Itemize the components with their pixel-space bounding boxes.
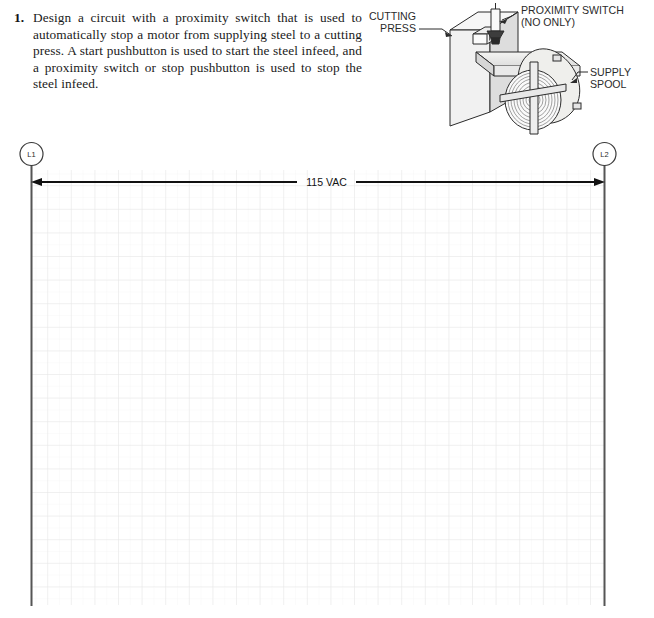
callout-proximity-switch-line1: PROXIMITY SWITCH <box>521 4 624 16</box>
l1-terminal-label: L1 <box>27 150 35 159</box>
callout-supply-spool-line1: SUPPLY <box>590 66 631 78</box>
worksheet-page: 1. Design a circuit with a proximity swi… <box>0 0 654 618</box>
proximity-switch-barrel <box>491 9 500 31</box>
callout-proximity-switch-line2: (NO ONLY) <box>521 16 575 28</box>
problem-text: Design a circuit with a proximity switch… <box>33 10 362 93</box>
cutting-press-illustration: CUTTING PRESS PROXIMITY SWITCH (NO ONLY)… <box>366 0 654 136</box>
ladder-diagram-worksheet[interactable]: L1 L2 115 VAC <box>0 138 654 618</box>
supply-voltage-label: 115 VAC <box>306 176 347 188</box>
problem-statement: 1. Design a circuit with a proximity swi… <box>14 10 362 93</box>
l2-terminal-label: L2 <box>600 150 608 159</box>
l2-terminal: L2 <box>593 143 616 166</box>
callout-supply-spool-line2: SPOOL <box>590 78 627 90</box>
problem-number: 1. <box>14 10 33 27</box>
proximity-switch-nut-lower <box>491 38 500 44</box>
spool-tab-right <box>573 103 581 109</box>
spool-spindle-arm-vertical <box>530 62 538 134</box>
l1-terminal: L1 <box>20 143 43 166</box>
spool-tab-top <box>553 55 561 61</box>
callout-cutting-press-line1: CUTTING <box>369 10 416 22</box>
press-die-shoe-front <box>473 34 487 44</box>
grid-major-lines <box>31 170 605 605</box>
callout-cutting-press: CUTTING PRESS <box>369 10 452 37</box>
callout-cutting-press-line2: PRESS <box>380 22 416 34</box>
